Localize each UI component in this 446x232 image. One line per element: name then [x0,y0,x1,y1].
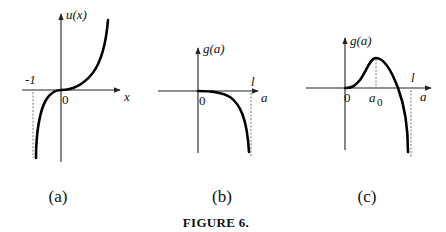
panel-b-x-label: a [261,90,268,105]
panel-a-curve-u [36,20,108,158]
panel-c-caption: (c) [358,187,377,206]
panel-a-minus-one-label: -1 [25,72,36,87]
panel-a-y-label: u(x) [66,7,87,22]
panel-b: g(a) a 0 l (b) [158,41,268,206]
panel-b-curve-g [198,91,249,152]
panel-b-y-label: g(a) [203,41,225,56]
panel-c: g(a) a 0 a 0 l (c) [306,33,431,206]
panel-b-caption: (b) [212,187,232,206]
panel-b-l-label: l [251,74,255,89]
panel-a-caption: (a) [49,187,68,206]
panel-b-origin-label: 0 [199,93,206,108]
panel-c-a0-label: a 0 [369,90,383,108]
panel-c-l-label: l [411,70,415,85]
panel-c-a0-base: a [369,90,376,105]
panel-a-x-label: x [123,89,130,104]
panel-c-a0-subscript: 0 [377,96,383,108]
panel-a: u(x) x 0 -1 (a) [22,7,130,206]
panel-c-x-label: a [420,89,427,104]
figure-caption: FIGURE 6. [183,215,249,230]
figure-6: u(x) x 0 -1 (a) g(a) a 0 l (b) g(a) a 0 … [0,0,446,232]
panel-a-origin-label: 0 [62,92,69,107]
panel-c-origin-label: 0 [344,90,351,105]
panel-c-y-label: g(a) [350,33,372,48]
